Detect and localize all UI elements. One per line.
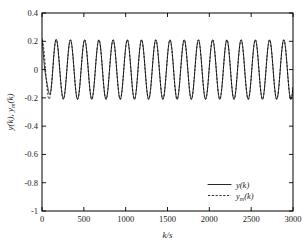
series-y-line: [42, 39, 293, 100]
legend-label-y-tail: (k): [240, 180, 250, 190]
y-tick-label: 0.4: [27, 8, 38, 18]
y-axis-tick-marks: [42, 13, 293, 211]
svg-text:y(k), ym(k): y(k), ym(k): [5, 94, 16, 132]
y-tick-label: -0.4: [25, 121, 39, 131]
x-axis-tick-labels: 050010001500200025003000: [40, 214, 302, 224]
x-axis-title: k/s: [163, 230, 173, 240]
y-tick-label: 0.2: [27, 36, 38, 46]
x-tick-label: 1000: [117, 214, 134, 224]
y-tick-label: -0.6: [25, 149, 38, 159]
x-tick-label: 3000: [285, 214, 302, 224]
figure-container: 050010001500200025003000 0.40.20-0.2-0.4…: [0, 0, 308, 249]
x-tick-label: 500: [77, 214, 90, 224]
legend-label-y: y(k): [235, 180, 249, 190]
y-tick-label: -0.2: [25, 93, 38, 103]
y-axis-title-part2-tail: (k): [5, 94, 15, 104]
data-series-group: [42, 39, 293, 100]
y-axis-title-part1: y(k): [5, 116, 15, 131]
y-tick-label: 0: [34, 65, 38, 75]
legend-label-ym: ym(k): [235, 191, 254, 202]
y-axis-title: y(k), ym(k): [5, 94, 16, 132]
y-axis-tick-labels: 0.40.20-0.2-0.4-0.6-0.8-1: [25, 8, 39, 216]
y-tick-label: -1: [31, 206, 38, 216]
legend: y(k) ym(k): [208, 180, 254, 202]
plot-frame: [42, 13, 293, 211]
x-tick-label: 2500: [243, 214, 260, 224]
x-axis-tick-marks: [42, 13, 293, 211]
x-tick-label: 1500: [159, 214, 176, 224]
chart-canvas: 050010001500200025003000 0.40.20-0.2-0.4…: [0, 0, 308, 249]
x-tick-label: 0: [40, 214, 44, 224]
x-tick-label: 2000: [201, 214, 218, 224]
legend-label-ym-tail: (k): [244, 191, 254, 201]
y-tick-label: -0.8: [25, 178, 38, 188]
